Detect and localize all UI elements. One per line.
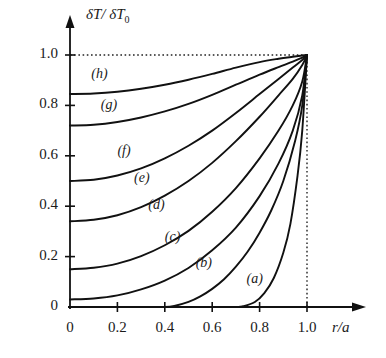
curve-label-g: (g): [101, 97, 117, 113]
x-tick-label-5: 1.0: [282, 319, 332, 336]
x-axis-arrowhead: [352, 303, 366, 312]
y-axis-title: δT/ δT0: [86, 6, 130, 25]
x-tick-label-2: 0.4: [140, 319, 190, 336]
y-tick-label-1: 0.2: [0, 247, 58, 264]
y-tick-label-5: 1.0: [0, 45, 58, 62]
y-tick-label-0: 0: [0, 297, 58, 314]
curve-label-b: (b): [196, 255, 212, 271]
x-axis-title: r/a: [332, 319, 350, 336]
curve-label-a: (a): [247, 271, 263, 287]
x-tick-label-3: 0.6: [187, 319, 237, 336]
curve-d: [70, 55, 307, 269]
y-axis-arrowhead: [66, 15, 75, 28]
curve-label-d: (d): [148, 197, 164, 213]
chart-figure: 00.20.40.60.81.0 00.20.40.60.81.0 (a)(b)…: [0, 0, 386, 358]
x-tick-label-4: 0.8: [235, 319, 285, 336]
y-tick-label-2: 0.4: [0, 196, 58, 213]
y-tick-label-3: 0.6: [0, 146, 58, 163]
curve-label-c: (c): [165, 229, 181, 245]
data-curves-group: [70, 55, 307, 307]
x-tick-label-1: 0.2: [92, 319, 142, 336]
y-axis-title-main: δT/ δT: [86, 6, 125, 22]
x-tick-label-0: 0: [45, 319, 95, 336]
curve-label-h: (h): [91, 66, 107, 82]
axes-group: [66, 15, 367, 312]
y-axis-title-subscript: 0: [125, 14, 130, 25]
curve-label-f: (f): [117, 143, 130, 159]
y-tick-label-4: 0.8: [0, 95, 58, 112]
curve-label-e: (e): [134, 170, 150, 186]
